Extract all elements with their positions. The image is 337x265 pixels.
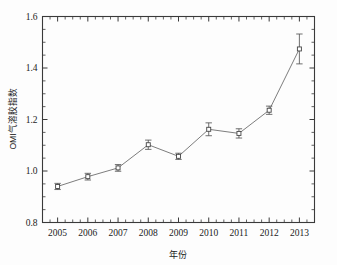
data-point-marker <box>267 108 271 112</box>
data-point-marker <box>177 154 181 158</box>
data-point-marker <box>86 175 90 179</box>
data-point-marker <box>56 184 60 188</box>
x-axis-title: 年份 <box>169 249 187 260</box>
x-tick-label: 2013 <box>290 228 309 238</box>
chart-figure: 0.81.01.21.41.6 200520062007200820092010… <box>0 0 337 265</box>
data-point-marker <box>116 166 120 170</box>
y-axis-minor-ticks <box>43 29 315 209</box>
x-tick-label: 2008 <box>139 228 158 238</box>
y-tick-label: 1.0 <box>26 166 38 176</box>
x-axis-major-ticks <box>58 17 300 223</box>
x-axis-minor-ticks <box>50 17 307 223</box>
plot-frame <box>43 17 315 223</box>
y-tick-label: 0.8 <box>26 218 38 228</box>
x-tick-label: 2012 <box>260 228 279 238</box>
x-tick-label: 2006 <box>78 228 97 238</box>
x-tick-label: 2010 <box>199 228 218 238</box>
data-point-marker <box>297 47 301 51</box>
line-chart: 0.81.01.21.41.6 200520062007200820092010… <box>0 0 337 265</box>
y-axis-tick-labels: 0.81.01.21.41.6 <box>26 12 38 228</box>
x-tick-label: 2007 <box>109 228 128 238</box>
y-tick-label: 1.6 <box>26 12 38 22</box>
data-point-marker <box>237 131 241 135</box>
x-tick-label: 2009 <box>169 228 188 238</box>
data-point-marker <box>207 127 211 131</box>
data-markers <box>56 47 302 189</box>
y-axis-major-ticks <box>43 17 315 223</box>
data-point-marker <box>146 143 150 147</box>
y-axis-title: OMI气溶胶指数 <box>7 88 18 149</box>
y-tick-label: 1.4 <box>26 63 38 73</box>
series-line <box>58 49 300 187</box>
error-bars <box>54 34 302 190</box>
x-tick-label: 2005 <box>48 228 67 238</box>
y-tick-label: 1.2 <box>26 115 38 125</box>
x-tick-label: 2011 <box>230 228 249 238</box>
x-axis-tick-labels: 200520062007200820092010201120122013 <box>48 228 309 238</box>
